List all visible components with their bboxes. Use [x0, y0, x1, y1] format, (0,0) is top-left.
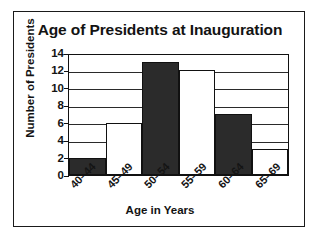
y-axis-ticks: 14121086420 — [36, 54, 64, 176]
chart-figure-frame: Age of Presidents at Inauguration Number… — [13, 11, 305, 227]
bar-slot — [69, 55, 106, 175]
y-tick-label: 4 — [42, 135, 64, 147]
y-tick-label: 6 — [42, 118, 64, 130]
bar-50-54[interactable] — [142, 62, 179, 175]
bar-slot — [142, 55, 179, 175]
chart-title: Age of Presidents at Inauguration — [14, 21, 306, 39]
y-tick-label: 2 — [42, 153, 64, 165]
y-tick-label: 0 — [42, 170, 64, 182]
bar-slot — [179, 55, 216, 175]
bar-slot — [252, 55, 289, 175]
x-axis-title: Age in Years — [14, 204, 306, 216]
bars-layer — [69, 55, 288, 175]
bar-slot — [106, 55, 143, 175]
plot-area — [68, 54, 289, 176]
bar-55-59[interactable] — [179, 70, 216, 175]
y-tick-label: 10 — [42, 83, 64, 95]
y-tick-label: 8 — [42, 100, 64, 112]
y-tick-label: 12 — [42, 65, 64, 77]
bar-slot — [215, 55, 252, 175]
y-tick-label: 14 — [42, 48, 64, 60]
